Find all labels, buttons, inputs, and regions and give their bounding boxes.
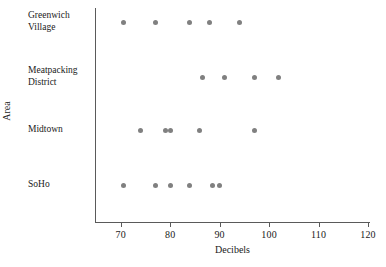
y-axis-category-label: SoHo [28,179,92,191]
x-axis-tick-label: 90 [200,229,240,241]
x-axis-tick [170,222,171,227]
data-point [200,75,205,80]
data-point [153,183,158,188]
dot-plot-chart: 708090100110120 GreenwichVillageMeatpack… [0,0,386,267]
data-point [210,183,215,188]
data-point [276,75,281,80]
x-axis-title: Decibels [95,244,370,256]
y-axis-category-label-line: Greenwich [28,10,92,22]
data-point [121,20,126,25]
y-axis-category-label-line: SoHo [28,179,92,191]
y-axis-category-label-line: Meatpacking [28,65,92,77]
x-axis-tick-label: 120 [348,229,386,241]
y-axis-category-label-line: Village [28,22,92,34]
data-point [168,183,173,188]
data-point [217,183,222,188]
data-point [187,20,192,25]
x-axis-line [95,222,370,223]
x-axis-tick-label: 70 [101,229,141,241]
data-point [237,20,242,25]
data-point [168,128,173,133]
x-axis-tick [121,222,122,227]
y-axis-category-label: GreenwichVillage [28,10,92,33]
data-point [163,128,168,133]
x-axis-tick [319,222,320,227]
y-axis-category-label: Midtown [28,124,92,136]
x-axis-tick-label: 110 [299,229,339,241]
x-axis-tick-label: 80 [150,229,190,241]
x-axis-tick [368,222,369,227]
data-point [252,128,257,133]
y-axis-title: Area [1,86,13,136]
data-point [222,75,227,80]
data-point [207,20,212,25]
data-point [197,128,202,133]
y-axis-line [95,8,96,222]
data-point [153,20,158,25]
data-point [121,183,126,188]
plot-area: 708090100110120 GreenwichVillageMeatpack… [0,0,386,267]
y-axis-category-label-line: District [28,77,92,89]
data-point [187,183,192,188]
x-axis-tick-label: 100 [249,229,289,241]
y-axis-category-label: MeatpackingDistrict [28,65,92,88]
x-axis-tick [220,222,221,227]
data-point [252,75,257,80]
y-axis-category-label-line: Midtown [28,124,92,136]
data-point [138,128,143,133]
x-axis-tick [269,222,270,227]
